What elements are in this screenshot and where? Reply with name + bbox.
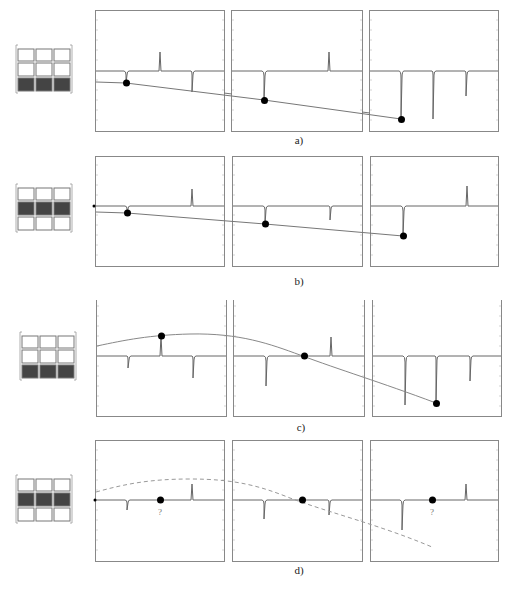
spectra-panels-c: [0, 300, 509, 440]
data-point-d3: [429, 497, 436, 504]
caption-a: a): [279, 134, 319, 146]
data-point-a1: [123, 80, 130, 87]
data-point-d1: [157, 497, 164, 504]
caption-c: c): [281, 421, 321, 433]
unknown-marker-d3: ?: [430, 507, 434, 517]
data-point-b1: [124, 210, 131, 217]
data-point-c2: [301, 353, 308, 360]
spectra-panels-b: [0, 150, 509, 300]
data-point-c3: [433, 400, 440, 407]
data-point-c1: [158, 333, 165, 340]
figure-row-d: ? ? d): [0, 440, 509, 591]
spectra-panels-d: ? ?: [0, 440, 509, 591]
data-point-d2: [299, 497, 306, 504]
spectra-panels-a: [0, 0, 509, 150]
unknown-marker-d1: ?: [158, 507, 162, 517]
data-point-b3: [400, 233, 407, 240]
figure-row-c: c): [0, 300, 509, 440]
figure-row-a: a): [0, 0, 509, 150]
data-point-b2: [262, 221, 269, 228]
figure-row-b: b): [0, 150, 509, 300]
caption-b: b): [279, 275, 319, 287]
caption-d: d): [279, 564, 319, 576]
data-point-a2: [261, 97, 268, 104]
data-point-a3: [398, 116, 405, 123]
